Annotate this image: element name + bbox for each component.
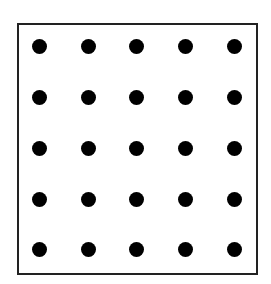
grid-dot [227, 242, 242, 257]
grid-dot [227, 192, 242, 207]
grid-dot [178, 141, 193, 156]
grid-dot [178, 39, 193, 54]
grid-dot [178, 90, 193, 105]
grid-dot [129, 192, 144, 207]
grid-dot [32, 242, 47, 257]
grid-dot [81, 90, 96, 105]
grid-dot [81, 141, 96, 156]
grid-dot [178, 192, 193, 207]
grid-dot [81, 39, 96, 54]
grid-dot [32, 192, 47, 207]
grid-dot [81, 192, 96, 207]
grid-dot [227, 90, 242, 105]
grid-dot [129, 90, 144, 105]
grid-dot [81, 242, 96, 257]
grid-dot [129, 141, 144, 156]
grid-dot [32, 90, 47, 105]
grid-dot [178, 242, 193, 257]
grid-dot [227, 39, 242, 54]
grid-dot [227, 141, 242, 156]
grid-dot [32, 39, 47, 54]
grid-dot [129, 39, 144, 54]
grid-dot [129, 242, 144, 257]
grid-dot [32, 141, 47, 156]
